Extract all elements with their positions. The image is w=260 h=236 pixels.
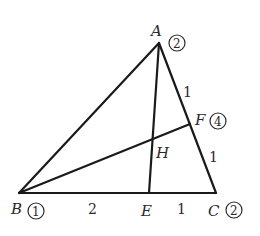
label-a: A xyxy=(149,22,162,40)
label-h: H xyxy=(155,144,170,162)
weight-f: 4 xyxy=(214,115,222,129)
label-c: C xyxy=(208,202,220,220)
weight-a: 2 xyxy=(173,37,181,51)
segment-ab xyxy=(19,43,159,193)
segment-ac xyxy=(159,43,216,193)
weight-c: 2 xyxy=(230,204,238,218)
label-b: B xyxy=(10,200,22,218)
length-be: 2 xyxy=(88,201,97,217)
length-af: 1 xyxy=(183,84,192,100)
weight-b: 1 xyxy=(32,205,40,219)
geometry-figure: A 2 B 1 C 2 E F 4 H 1 1 2 1 xyxy=(0,0,260,236)
label-f: F xyxy=(194,111,206,129)
length-fc: 1 xyxy=(209,149,218,165)
length-ec: 1 xyxy=(177,201,186,217)
segment-ae xyxy=(149,43,159,193)
label-e: E xyxy=(140,202,152,220)
